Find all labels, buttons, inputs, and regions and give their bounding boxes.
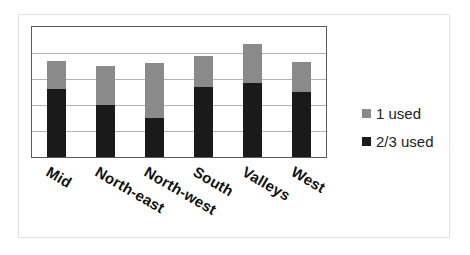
bar-north-west bbox=[145, 63, 164, 157]
gridline bbox=[32, 105, 326, 106]
legend-swatch-1-used bbox=[362, 109, 371, 118]
plot-area bbox=[31, 26, 327, 158]
bar-segment-2-3-used bbox=[194, 87, 213, 157]
bar-segment-1-used bbox=[292, 62, 311, 92]
bar-segment-2-3-used bbox=[292, 92, 311, 157]
gridline bbox=[32, 79, 326, 80]
gridline bbox=[32, 53, 326, 54]
legend-swatch-2-3-used bbox=[362, 137, 371, 146]
gridline bbox=[32, 131, 326, 132]
bar-segment-1-used bbox=[145, 63, 164, 118]
legend-item-2-3-used: 2/3 used bbox=[362, 133, 434, 150]
legend-label: 2/3 used bbox=[376, 133, 434, 150]
bar-segment-2-3-used bbox=[145, 118, 164, 157]
bar-north-east bbox=[96, 66, 115, 157]
bar-segment-1-used bbox=[96, 66, 115, 105]
legend-item-1-used: 1 used bbox=[362, 105, 421, 122]
bar-west bbox=[292, 62, 311, 157]
bar-mid bbox=[47, 61, 66, 157]
bar-segment-1-used bbox=[194, 56, 213, 87]
bar-segment-2-3-used bbox=[243, 83, 262, 157]
bar-segment-2-3-used bbox=[47, 89, 66, 157]
legend-label: 1 used bbox=[376, 105, 421, 122]
bar-segment-1-used bbox=[243, 44, 262, 83]
bar-segment-1-used bbox=[47, 61, 66, 90]
bar-south bbox=[194, 56, 213, 157]
bar-segment-2-3-used bbox=[96, 105, 115, 157]
bar-valleys bbox=[243, 44, 262, 157]
